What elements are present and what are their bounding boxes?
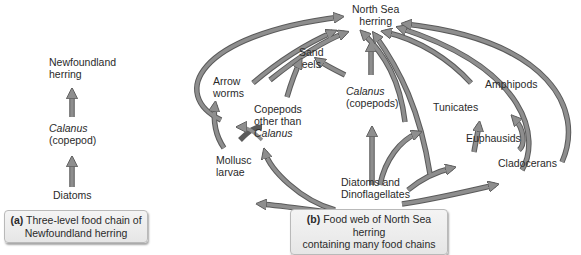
node-line: North Sea [352,3,399,15]
node-copepods-other: Copepods other than Calanus [254,103,302,139]
node-line: Cladocerans [498,157,557,169]
node-line: Diatoms and [341,176,410,188]
node-newfoundland-herring: Newfoundland herring [49,56,116,80]
node-line: (copepod) [49,134,96,146]
node-line: Calanus [49,122,96,134]
node-sand-eels: Sand eels [299,46,324,70]
node-line: Amphipods [485,78,538,90]
node-line: Diatoms [53,189,92,201]
node-line: Calanus [346,85,399,97]
caption-line: Three-level food chain of [26,214,142,226]
caption-line: Newfoundland herring [25,227,128,239]
node-euphausids: Euphausids [466,132,521,144]
node-north-sea-herring: North Sea herring [352,3,399,27]
node-line: other than [254,115,302,127]
caption-line: containing many food chains [302,238,435,250]
node-line: Calanus [254,127,302,139]
caption-a: (a) Three-level food chain of Newfoundla… [4,210,148,243]
node-diatoms: Diatoms [53,189,92,201]
node-line: Copepods [254,103,302,115]
node-line: Arrow [213,75,244,87]
node-line: Tunicates [433,101,478,113]
node-line: Dinoflagellates [341,188,410,200]
node-line: Euphausids [466,132,521,144]
node-line: herring [49,68,116,80]
node-line: Mollusc [216,154,252,166]
node-line: eels [299,58,324,70]
node-line: larvae [216,166,252,178]
node-tunicates: Tunicates [433,101,478,113]
node-cladocerans: Cladocerans [498,157,557,169]
node-arrow-worms: Arrow worms [213,75,244,99]
node-line: Sand [299,46,324,58]
node-line: worms [213,87,244,99]
node-mollusc-larvae: Mollusc larvae [216,154,252,178]
node-diatoms-dinoflagellates: Diatoms and Dinoflagellates [341,176,410,200]
node-calanus-copepods: Calanus (copepods) [346,85,399,109]
node-line: Newfoundland [49,56,116,68]
caption-letter: (a) [10,214,23,226]
node-calanus-copepod: Calanus (copepod) [49,122,96,146]
node-amphipods: Amphipods [485,78,538,90]
caption-b: (b) Food web of North Sea herring contai… [290,209,448,255]
caption-letter: (b) [307,213,320,225]
caption-line: Food web of North Sea herring [323,213,431,238]
node-line: herring [352,15,399,27]
node-line: (copepods) [346,97,399,109]
